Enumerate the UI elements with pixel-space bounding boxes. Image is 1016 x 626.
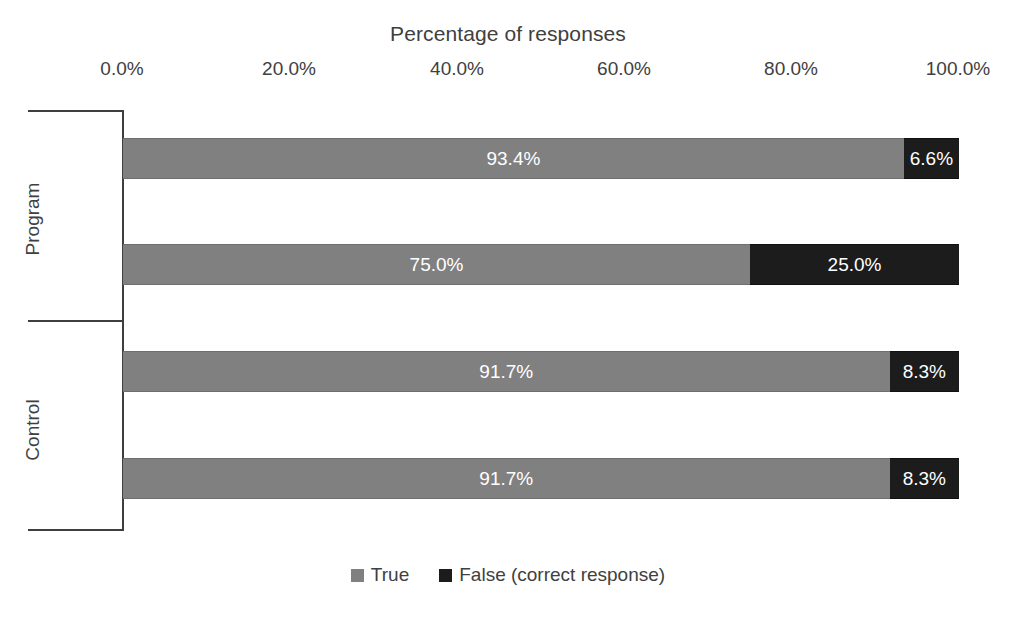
bar-label-true: 93.4% — [486, 149, 540, 168]
x-axis-tick-5: 100.0% — [926, 58, 990, 80]
bar-segment-false[interactable]: 25.0% — [750, 244, 959, 285]
y-axis-bracket-top — [28, 110, 124, 112]
group-label-program-text: Program — [22, 114, 44, 324]
bar-segment-true[interactable]: 93.4% — [123, 138, 904, 179]
group-label-program: Program — [22, 114, 44, 324]
bar-label-false: 6.6% — [910, 149, 953, 168]
bar-label-false: 25.0% — [828, 255, 882, 274]
x-axis-tick-2: 40.0% — [430, 58, 484, 80]
bar-segment-false[interactable]: 8.3% — [890, 458, 959, 499]
legend-swatch-false-icon — [439, 569, 452, 582]
bar-segment-true[interactable]: 91.7% — [123, 458, 890, 499]
group-label-control-text: Control — [22, 325, 44, 535]
legend-item-true[interactable]: True — [351, 564, 409, 586]
x-axis-tick-0: 0.0% — [100, 58, 143, 80]
bar-label-true: 75.0% — [410, 255, 464, 274]
bar-label-false: 8.3% — [903, 362, 946, 381]
x-axis-tick-labels: 0.0% 20.0% 40.0% 60.0% 80.0% 100.0% — [0, 58, 1016, 84]
chart-title: Percentage of responses — [0, 22, 1016, 46]
table-row[interactable]: 93.4% 6.6% — [123, 138, 959, 179]
table-row[interactable]: 91.7% 8.3% — [123, 458, 959, 499]
chart-legend: True False (correct response) — [0, 564, 1016, 586]
bar-segment-true[interactable]: 91.7% — [123, 351, 890, 392]
bar-segment-false[interactable]: 8.3% — [890, 351, 959, 392]
bar-label-true: 91.7% — [479, 362, 533, 381]
legend-label-false: False (correct response) — [459, 564, 665, 586]
legend-swatch-true-icon — [351, 569, 364, 582]
x-axis-tick-4: 80.0% — [764, 58, 818, 80]
bar-label-true: 91.7% — [479, 469, 533, 488]
chart-container: Percentage of responses 0.0% 20.0% 40.0%… — [0, 0, 1016, 626]
x-axis-tick-1: 20.0% — [262, 58, 316, 80]
bar-segment-false[interactable]: 6.6% — [904, 138, 959, 179]
legend-label-true: True — [371, 564, 409, 586]
table-row[interactable]: 91.7% 8.3% — [123, 351, 959, 392]
bar-segment-true[interactable]: 75.0% — [123, 244, 750, 285]
table-row[interactable]: 75.0% 25.0% — [123, 244, 959, 285]
group-label-control: Control — [22, 325, 44, 535]
x-axis-tick-3: 60.0% — [597, 58, 651, 80]
legend-item-false[interactable]: False (correct response) — [439, 564, 665, 586]
bar-label-false: 8.3% — [903, 469, 946, 488]
